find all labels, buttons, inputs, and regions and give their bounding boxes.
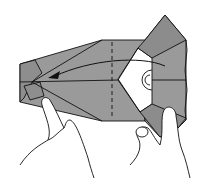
- origami-diagram: [0, 0, 203, 185]
- diagram-svg: [0, 0, 203, 185]
